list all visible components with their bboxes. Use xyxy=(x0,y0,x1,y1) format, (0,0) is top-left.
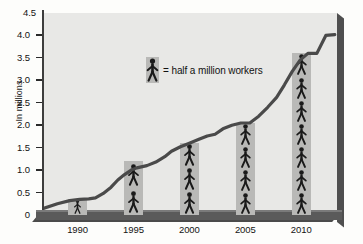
y-axis-tick-label: 2.0 xyxy=(17,119,30,130)
y-axis-tick-mark xyxy=(36,34,42,36)
legend-label: = half a million workers xyxy=(163,65,263,76)
y-axis-tick-label: 0.5 xyxy=(17,187,30,198)
y-axis-tick-label: 4.5 xyxy=(23,7,36,18)
x-axis-tick-label: 1990 xyxy=(55,224,101,235)
y-axis-tick-mark xyxy=(36,102,42,104)
y-axis-tick-label: 3.5 xyxy=(17,52,30,63)
y-axis-tick-mark xyxy=(36,79,42,81)
y-axis-tick-label: 2.5 xyxy=(17,97,30,108)
y-axis-tick-label: 3.0 xyxy=(17,74,30,85)
x-axis-tick-label: 1995 xyxy=(110,224,156,235)
y-axis-tick-mark xyxy=(36,192,42,194)
worker-pictogram-icon xyxy=(146,57,159,83)
legend: = half a million workers xyxy=(146,57,263,83)
x-axis-tick-label: 2010 xyxy=(278,224,324,235)
y-axis-tick-mark xyxy=(36,147,42,149)
plot-frame-right-shadow xyxy=(337,13,344,227)
y-axis-tick-label: 0 xyxy=(25,209,30,220)
trend-line xyxy=(44,13,337,215)
y-axis-tick-label: 1.0 xyxy=(17,164,30,175)
x-axis-tick-label: 2000 xyxy=(166,224,212,235)
y-axis-tick-mark xyxy=(36,57,42,59)
y-axis-tick-label: 4.0 xyxy=(17,29,30,40)
x-axis-tick-label: 2005 xyxy=(222,224,268,235)
chart-canvas: In millions 00.51.01.52.02.53.03.54.04.5… xyxy=(0,0,363,244)
y-axis-tick-label: 1.5 xyxy=(17,142,30,153)
y-axis-tick-mark xyxy=(36,124,42,126)
y-axis-tick-mark xyxy=(36,169,42,171)
